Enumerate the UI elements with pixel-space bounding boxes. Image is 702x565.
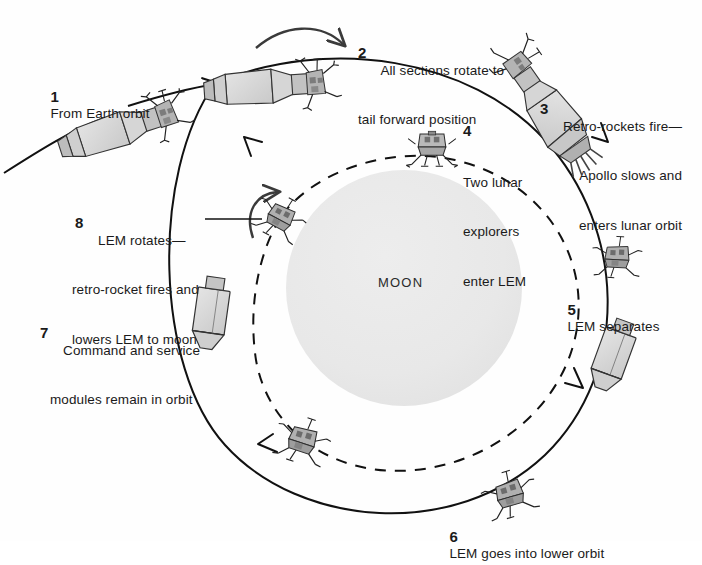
- step-3-text-line-3: enters lunar orbit: [540, 218, 682, 235]
- step-5-label: 5 LEM separates: [552, 285, 660, 352]
- step-8-text-line-3: lowers LEM to moon: [72, 332, 199, 349]
- step-3-number: 3: [540, 100, 548, 117]
- rotation-arrow-step2: [256, 29, 343, 48]
- step-1-number: 1: [50, 88, 58, 105]
- step-7-text-line-2: modules remain in orbit: [50, 392, 200, 409]
- step-4-number: 4: [463, 123, 526, 140]
- step-1-label: 1 From Earth orbit: [35, 72, 150, 139]
- step-8-label: 8 LEM rotates— retro-rocket fires and lo…: [75, 182, 199, 381]
- step-8-number: 8: [75, 214, 83, 231]
- step-6-label: 6 LEM goes into lower orbit: [434, 512, 604, 565]
- step-1-text-line-1: From Earth orbit: [50, 106, 149, 121]
- step-8-text-line-2: retro-rocket fires and: [72, 282, 199, 299]
- step-8-text-line-1: LEM rotates—: [98, 233, 185, 248]
- step-5-text-line-1: LEM separates: [567, 319, 659, 334]
- step-3-label: 3 Retro-rockets fire— Apollo slows and e…: [540, 68, 682, 267]
- craft-lem-returning: [269, 410, 335, 470]
- step-3-text-line-1: Retro-rockets fire—: [563, 119, 682, 134]
- step-3-text-line-2: Apollo slows and: [540, 168, 682, 185]
- step-5-number: 5: [567, 301, 575, 318]
- step-2-number: 2: [358, 44, 366, 61]
- step-2-text-line-1: All sections rotate to: [380, 63, 504, 78]
- step-4-label: 4 Two lunar explorers enter LEM: [463, 90, 526, 323]
- step-4-text-line-2: explorers: [463, 224, 526, 241]
- moon-label: MOON: [378, 275, 423, 290]
- step-4-text-line-1: Two lunar: [463, 175, 526, 192]
- step-4-text-line-3: enter LEM: [463, 274, 526, 291]
- step-6-text-line-1: LEM goes into lower orbit: [449, 546, 604, 561]
- step-6-number: 6: [449, 528, 457, 545]
- step-7-number: 7: [40, 324, 48, 341]
